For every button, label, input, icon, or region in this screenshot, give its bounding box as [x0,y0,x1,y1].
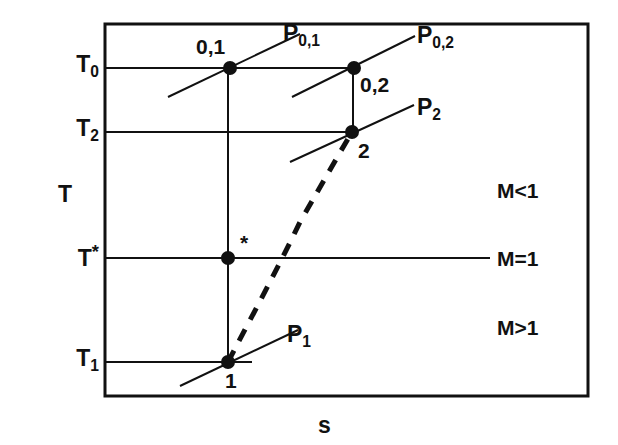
ts-diagram-figure: T s T0T2T*T10,10,22*1P0,1P0,2P2P1M<1M=1M… [0,0,618,445]
state-point-marker-p2 [345,125,359,139]
tick-label-T0: T0 [0,53,99,80]
mach-region-label-subsonic: M<1 [497,180,538,201]
point-label-p01: 0,1 [196,36,225,57]
state-point-marker-pstar [221,251,235,265]
tick-label-T1: T1 [0,347,99,374]
tick-label-Tstar: T* [0,243,99,270]
isobar-label-P1: P1 [287,323,311,350]
vertical-connector-lines [228,68,353,362]
isobar-label-P02: P0,2 [417,24,454,51]
tick-label-T2: T2 [0,117,99,144]
point-label-pstar: * [240,232,248,253]
state-point-marker-p1 [221,355,235,369]
point-label-p1: 1 [225,370,237,391]
point-label-p02: 0,2 [360,74,389,95]
isobar-label-P2: P2 [417,96,441,123]
plot-frame [105,24,588,396]
state-point-marker-p02 [347,61,361,75]
mach-region-label-sonic: M=1 [497,248,538,269]
point-label-p2: 2 [358,140,370,161]
mach-region-label-supersonic: M>1 [497,317,538,338]
state-point-marker-p01 [223,61,237,75]
y-axis-label: T [58,183,72,206]
x-axis-label: s [318,414,331,437]
isobar-label-P01: P0,1 [283,22,320,49]
